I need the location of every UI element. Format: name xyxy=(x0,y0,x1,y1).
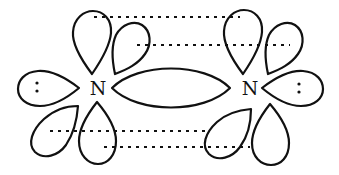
n2-orbitals xyxy=(205,10,323,165)
n2-p-lobe-top-tilted xyxy=(266,23,303,74)
atom-label-n1: N xyxy=(90,77,107,99)
n1-p-lobe-bottom-vertical xyxy=(79,102,116,164)
n1-lone-pair-lobe xyxy=(18,71,79,106)
n1-lone-pair xyxy=(35,81,38,92)
n2-lone-pair xyxy=(297,82,300,93)
n1-p-lobe-top-vertical xyxy=(73,11,111,74)
n1-p-lobe-top-tilted xyxy=(113,23,150,74)
n2-orbital-diagram: N N xyxy=(0,0,339,175)
sigma-bond-lens xyxy=(112,69,230,108)
n2-p-lobe-top-vertical xyxy=(224,10,262,74)
n2-p-lobe-bottom-tilted xyxy=(205,109,251,158)
n2-p-lobe-bottom-vertical xyxy=(252,104,289,165)
n2-lone-pair-lobe xyxy=(262,71,323,106)
atom-label-n2: N xyxy=(242,77,259,99)
n1-p-lobe-bottom-tilted xyxy=(31,106,78,156)
n1-orbitals xyxy=(18,11,150,164)
